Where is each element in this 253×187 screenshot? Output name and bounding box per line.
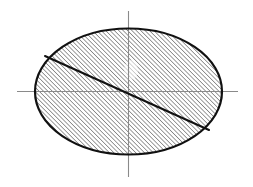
faded-spot <box>124 60 138 80</box>
ellipse-cross-section-diagram <box>0 0 253 187</box>
figure-canvas <box>0 0 253 187</box>
